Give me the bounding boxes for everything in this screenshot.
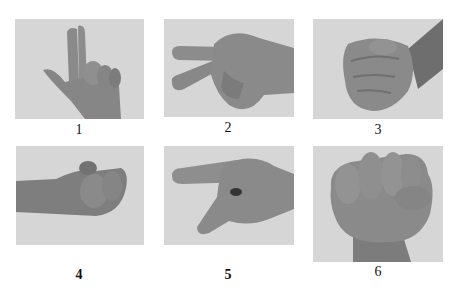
hand-fist-side-icon [313, 19, 443, 119]
hand-two-fingers-icon [164, 19, 294, 117]
panel-label-4: 4 [64, 267, 94, 283]
hand-one-finger-icon [15, 19, 144, 119]
photo-panel-5 [164, 146, 294, 245]
hand-fist-front-icon [313, 146, 443, 262]
panel-label-3: 3 [363, 122, 393, 138]
photo-panel-4 [16, 146, 144, 245]
panel-label-6: 6 [363, 264, 393, 280]
photo-panel-2 [164, 19, 294, 117]
photo-panel-3 [313, 19, 443, 119]
photo-panel-1 [15, 19, 144, 119]
panel-label-2: 2 [213, 120, 243, 136]
panel-label-5: 5 [213, 267, 243, 283]
panel-label-1: 1 [64, 122, 94, 138]
hand-pointing-icon [164, 146, 294, 245]
hand-pinched-fingers-icon [16, 146, 144, 245]
photo-panel-6 [313, 146, 443, 262]
